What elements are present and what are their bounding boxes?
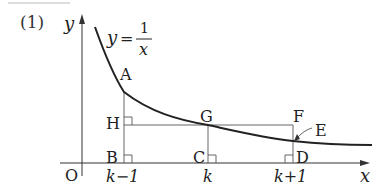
tick-k-minus-1: k−1 xyxy=(106,167,139,186)
origin-label: O xyxy=(65,166,78,185)
curve-label-lhs: y xyxy=(106,27,118,48)
diagram: y = 1 x y x O A H B G C F E D k−1 k k+1 xyxy=(0,0,377,186)
curve-label-eq: = xyxy=(120,29,133,48)
point-C-label: C xyxy=(193,148,205,167)
point-H-label: H xyxy=(106,114,120,133)
tick-k-plus-1: k+1 xyxy=(274,167,307,186)
right-angle-C xyxy=(208,155,216,163)
right-angle-B xyxy=(124,155,132,163)
point-D-label: D xyxy=(296,148,309,167)
y-axis-label: y xyxy=(63,13,75,34)
pointer-E-arrow-icon xyxy=(294,134,300,141)
point-F-label: F xyxy=(293,107,304,126)
point-G-label: G xyxy=(200,107,213,126)
curve-label-num: 1 xyxy=(140,20,149,36)
right-angle-D xyxy=(285,155,293,163)
point-E-label: E xyxy=(315,121,327,140)
right-angle-H xyxy=(124,117,132,125)
curve-label-den: x xyxy=(139,40,148,59)
y-axis-arrow-icon xyxy=(79,14,85,24)
point-A-label: A xyxy=(119,65,132,84)
point-B-label: B xyxy=(106,148,118,167)
curve-reciprocal xyxy=(95,27,372,145)
tick-k: k xyxy=(203,167,213,186)
x-axis-label: x xyxy=(360,165,370,186)
